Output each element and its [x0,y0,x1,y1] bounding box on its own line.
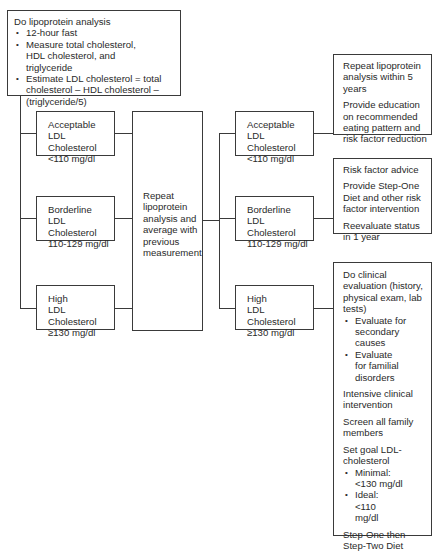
high-action-box: Do clinical evaluation (history, physica… [333,262,432,536]
label-line: Acceptable [48,119,114,130]
start-bullet: Estimate LDL cholesterol = total cholest… [14,73,174,107]
start-bullet: 12-hour fast [14,27,174,38]
label-line: ≥130 mg/dl [247,327,313,338]
label-line: LDL Cholesterol [48,304,114,327]
label-line: Acceptable [247,119,313,130]
connector-to-first-borderline [20,218,36,219]
borderline-action-box: Risk factor advice Provide Step-One Diet… [333,158,432,234]
label-line: Borderline [247,204,313,215]
label-line: LDL Cholesterol [48,215,114,238]
second-borderline-box: Borderline LDL Cholesterol 110-129 mg/dl [235,196,314,241]
evaluation-text: Do clinical evaluation (history, physica… [343,269,427,315]
first-borderline-box: Borderline LDL Cholesterol 110-129 mg/dl [36,196,115,241]
connector-first-borderline-to-repeat [115,218,132,219]
start-box: Do lipoprotein analysis 12-hour fast Mea… [7,10,181,96]
goal-bullets: Minimal: <130 mg/dl Ideal: <110 mg/dl [343,467,427,524]
label-line: <110 mg/dl [48,153,114,164]
action-text: Reevaluate status in 1 year [343,220,427,243]
first-acceptable-box: Acceptable LDL Cholesterol <110 mg/dl [36,111,115,156]
action-text: Provide education on recommended eating … [343,99,427,145]
connector-to-second-acceptable [219,133,235,134]
intervention-text: Intensive clinical intervention [343,388,427,411]
label-line: High [48,293,114,304]
label-line: LDL Cholesterol [247,130,313,153]
connector-repeat-to-spine [203,220,220,221]
label-line: LDL Cholesterol [48,130,114,153]
connector-first-acceptable-to-repeat [115,133,132,134]
label-line: High [247,293,313,304]
connector-second-spine [219,133,220,309]
goal-bullet: Minimal: <130 mg/dl [343,467,427,490]
label-line: Borderline [48,204,114,215]
acceptable-action-box: Repeat lipoprotein analysis within 5 yea… [333,54,432,135]
connector-to-second-high [219,308,235,309]
start-title: Do lipoprotein analysis [14,16,174,27]
label-line: 110-129 mg/dl [247,238,313,249]
diet-text: Step-One then Step-Two Diet [343,529,427,551]
repeat-analysis-box: Repeat lipoprotein analysis and average … [132,111,203,331]
connector-to-borderline-action [314,218,334,219]
repeat-text: Repeat lipoprotein analysis and average … [143,190,198,258]
connector-to-first-acceptable [20,133,36,134]
first-high-box: High LDL Cholesterol ≥130 mg/dl [36,285,115,330]
label-line: 110-129 mg/dl [48,238,114,249]
evaluation-bullet: Evaluate for secondary causes [343,315,427,349]
second-high-box: High LDL Cholesterol ≥130 mg/dl [235,285,314,330]
label-line: <110 mg/dl [247,153,313,164]
label-line: LDL Cholesterol [247,215,313,238]
action-text: Repeat lipoprotein analysis within 5 yea… [343,60,427,94]
start-bullet: Measure total cholesterol, HDL cholester… [14,39,174,73]
connector-to-high-action [314,308,334,309]
goal-title: Set goal LDL-cholesterol [343,444,427,467]
connector-to-first-high [20,308,36,309]
action-text: Risk factor advice [343,164,427,175]
connector-to-second-borderline [219,218,235,219]
connector-first-high-to-repeat [115,308,132,309]
label-line: ≥130 mg/dl [48,327,114,338]
second-acceptable-box: Acceptable LDL Cholesterol <110 mg/dl [235,111,314,156]
start-bullets: 12-hour fast Measure total cholesterol, … [14,27,174,107]
evaluation-bullets: Evaluate for secondary causes Evaluate f… [343,315,427,383]
screen-text: Screen all family members [343,416,427,439]
connector-to-acceptable-action [314,133,334,134]
evaluation-bullet: Evaluate for familial disorders [343,349,427,383]
label-line: LDL Cholesterol [247,304,313,327]
connector-left-spine [20,96,21,309]
action-text: Provide Step-One Diet and other risk fac… [343,180,427,214]
goal-bullet: Ideal: <110 mg/dl [343,489,427,523]
